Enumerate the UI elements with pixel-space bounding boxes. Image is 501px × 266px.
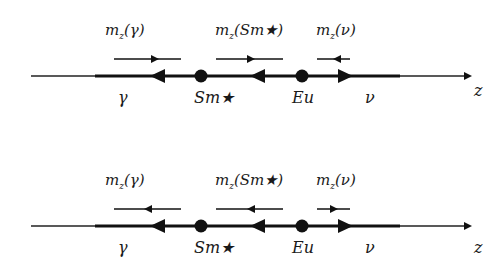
- moment-arrow-nu: [317, 55, 350, 63]
- arrow-right-icon: [151, 55, 159, 63]
- panel-bottom: mz(γ) mz(Sm★) mz(ν) γ Sm★ Eu ν: [31, 171, 483, 257]
- z-axis-bottom: [31, 219, 472, 233]
- moment-arrow-gamma: [114, 55, 181, 63]
- moment-label-gamma: mz(γ): [105, 21, 145, 41]
- arrow-left-icon: [250, 69, 265, 83]
- moment-label-gamma: mz(γ): [105, 171, 145, 191]
- panel-top: mz(γ) mz(Sm★) mz(ν): [31, 21, 483, 107]
- arrow-left-icon: [247, 205, 255, 213]
- point-sm-icon: [195, 220, 208, 233]
- point-label-gamma: γ: [118, 238, 128, 257]
- arrow-left-icon: [150, 219, 165, 233]
- axis-arrowhead-icon: [464, 72, 472, 80]
- point-eu-icon: [296, 220, 309, 233]
- moment-label-nu: mz(ν): [316, 21, 356, 41]
- point-label-eu: Eu: [291, 238, 314, 257]
- point-label-sm: Sm★: [194, 238, 236, 257]
- axis-arrowhead-icon: [464, 222, 472, 230]
- moment-label-sm: mz(Sm★): [215, 21, 283, 41]
- point-eu-icon: [296, 70, 309, 83]
- moment-arrow-nu: [317, 205, 350, 213]
- magnetic-moment-diagram: mz(γ) mz(Sm★) mz(ν): [0, 0, 501, 266]
- moment-label-sm: mz(Sm★): [215, 171, 283, 191]
- moment-arrow-gamma: [114, 205, 181, 213]
- moment-arrow-sm: [216, 205, 283, 213]
- axis-label-z: z: [473, 238, 483, 257]
- point-label-eu: Eu: [291, 88, 314, 107]
- arrow-left-icon: [333, 55, 341, 63]
- point-label-sm: Sm★: [194, 88, 236, 107]
- point-sm-icon: [195, 70, 208, 83]
- point-label-nu: ν: [365, 238, 375, 257]
- arrow-right-icon: [247, 55, 255, 63]
- z-axis-top: [31, 69, 472, 83]
- moment-label-nu: mz(ν): [316, 171, 356, 191]
- arrow-right-icon: [338, 69, 353, 83]
- axis-label-z: z: [473, 81, 483, 100]
- arrow-left-icon: [250, 219, 265, 233]
- arrow-left-icon: [144, 205, 152, 213]
- arrow-right-icon: [330, 205, 338, 213]
- point-label-gamma: γ: [118, 88, 128, 107]
- arrow-right-icon: [338, 219, 353, 233]
- arrow-left-icon: [150, 69, 165, 83]
- moment-arrow-sm: [216, 55, 283, 63]
- point-label-nu: ν: [365, 88, 375, 107]
